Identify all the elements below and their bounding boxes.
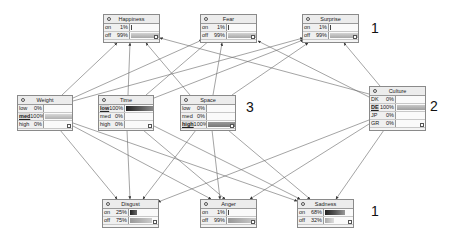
state-row-jp[interactable]: JP0% bbox=[370, 112, 425, 120]
state-row-dk[interactable]: DK0% bbox=[370, 96, 425, 104]
node-title-bar[interactable]: Fear bbox=[201, 15, 256, 24]
node-anger[interactable]: Anger on1% off99% bbox=[200, 199, 257, 228]
node-happiness[interactable]: Happiness on1% off99% bbox=[103, 14, 160, 43]
node-toggle-icon[interactable] bbox=[106, 202, 110, 206]
node-toggle-icon[interactable] bbox=[306, 17, 310, 21]
probability-bar bbox=[397, 105, 425, 110]
state-row-on[interactable]: on1% bbox=[104, 24, 159, 32]
state-row-de[interactable]: DE100% bbox=[370, 104, 425, 112]
resize-handle-icon[interactable] bbox=[154, 35, 158, 39]
node-title-bar[interactable]: Sadness bbox=[298, 200, 353, 209]
node-title-bar[interactable]: Time bbox=[99, 96, 153, 105]
state-row-low[interactable]: low0% bbox=[18, 105, 72, 113]
group-label-middle: 3 bbox=[246, 99, 254, 115]
node-toggle-icon[interactable] bbox=[301, 202, 305, 206]
edge-time-happiness bbox=[128, 43, 130, 95]
resize-handle-icon[interactable] bbox=[148, 124, 152, 128]
edge-culture-surprise bbox=[344, 43, 380, 86]
node-title-bar[interactable]: Disgust bbox=[103, 200, 158, 209]
edge-time-disgust bbox=[127, 130, 130, 199]
resize-handle-icon[interactable] bbox=[153, 220, 157, 224]
node-disgust[interactable]: Disgust on25% off75% bbox=[102, 199, 159, 228]
node-weight[interactable]: Weight low0% med100% high0% bbox=[17, 95, 73, 131]
state-row-med[interactable]: med0% bbox=[181, 113, 235, 121]
edge-space-sadness bbox=[228, 130, 310, 199]
resize-handle-icon[interactable] bbox=[230, 124, 234, 128]
resize-handle-icon[interactable] bbox=[251, 35, 255, 39]
edge-time-angry bbox=[143, 130, 225, 199]
node-title-bar[interactable]: Surprise bbox=[303, 15, 358, 24]
state-row-on[interactable]: on1% bbox=[201, 24, 256, 32]
node-title-bar[interactable]: Culture bbox=[370, 87, 425, 96]
probability-bar bbox=[45, 114, 72, 119]
group-label-culture: 2 bbox=[430, 98, 438, 114]
node-toggle-icon[interactable] bbox=[204, 202, 208, 206]
edge-culture-happiness bbox=[160, 38, 369, 94]
edge-space-surprise bbox=[232, 43, 308, 95]
state-row-on[interactable]: on25% bbox=[103, 209, 158, 217]
node-sadness[interactable]: Sadness on68% off32% bbox=[297, 199, 354, 228]
state-row-on[interactable]: on1% bbox=[201, 209, 256, 217]
node-toggle-icon[interactable] bbox=[204, 17, 208, 21]
state-row-on[interactable]: on68% bbox=[298, 209, 353, 217]
edge-culture-disgust bbox=[158, 120, 369, 202]
state-row-off[interactable]: off99% bbox=[303, 32, 358, 40]
resize-handle-icon[interactable] bbox=[353, 35, 357, 39]
state-row-high[interactable]: high100% bbox=[181, 121, 235, 129]
group-label-bottom: 1 bbox=[371, 203, 379, 219]
edge-weight-happiness bbox=[62, 43, 117, 95]
state-row-off[interactable]: off99% bbox=[201, 217, 256, 225]
node-time[interactable]: Time low100% med0% high0% bbox=[98, 95, 154, 131]
state-row-med[interactable]: med100% bbox=[18, 113, 72, 121]
edge-space-happiness bbox=[146, 43, 190, 95]
state-row-on[interactable]: on1% bbox=[303, 24, 358, 32]
probability-bar bbox=[126, 106, 153, 111]
state-row-high[interactable]: high0% bbox=[99, 121, 153, 129]
node-toggle-icon[interactable] bbox=[102, 98, 106, 102]
resize-handle-icon[interactable] bbox=[251, 220, 255, 224]
node-culture[interactable]: Culture DK0% DE100% JP0% GR0% bbox=[369, 86, 426, 131]
node-title-bar[interactable]: Space bbox=[181, 96, 235, 105]
node-title-bar[interactable]: Weight bbox=[18, 96, 72, 105]
resize-handle-icon[interactable] bbox=[348, 220, 352, 224]
node-title-bar[interactable]: Anger bbox=[201, 200, 256, 209]
node-fear[interactable]: Fear on1% off99% bbox=[200, 14, 257, 43]
node-surprise[interactable]: Surprise on1% off99% bbox=[302, 14, 359, 43]
edge-time-sadness bbox=[154, 126, 300, 199]
node-title-bar[interactable]: Happiness bbox=[104, 15, 159, 24]
resize-handle-icon[interactable] bbox=[420, 123, 424, 127]
state-row-off[interactable]: off99% bbox=[104, 32, 159, 40]
probability-bar bbox=[130, 218, 152, 223]
node-toggle-icon[interactable] bbox=[184, 98, 188, 102]
state-row-low[interactable]: low0% bbox=[181, 105, 235, 113]
state-row-low[interactable]: low100% bbox=[99, 105, 153, 113]
edge-weight-fear bbox=[73, 40, 202, 98]
resize-handle-icon[interactable] bbox=[67, 124, 71, 128]
state-row-off[interactable]: off75% bbox=[103, 217, 158, 225]
node-space[interactable]: Space low0% med0% high100% bbox=[180, 95, 236, 131]
edge-space-disgust bbox=[143, 130, 196, 199]
node-toggle-icon[interactable] bbox=[373, 89, 377, 93]
probability-bar bbox=[130, 210, 137, 215]
state-row-gr[interactable]: GR0% bbox=[370, 120, 425, 128]
edge-space-fear bbox=[213, 43, 222, 95]
state-row-high[interactable]: high0% bbox=[18, 121, 72, 129]
edge-weight-surprise bbox=[73, 38, 303, 101]
group-label-top: 1 bbox=[371, 20, 379, 36]
edge-culture-angry bbox=[250, 124, 369, 199]
state-row-off[interactable]: off32% bbox=[298, 217, 353, 225]
state-row-med[interactable]: med0% bbox=[99, 113, 153, 121]
edge-time-fear bbox=[146, 40, 210, 95]
edge-weight-sadness bbox=[73, 123, 297, 201]
probability-bar bbox=[325, 210, 345, 215]
edge-space-angry bbox=[212, 130, 220, 199]
state-row-off[interactable]: off99% bbox=[201, 32, 256, 40]
edge-weight-disgust bbox=[60, 130, 117, 199]
node-toggle-icon[interactable] bbox=[21, 98, 25, 102]
node-toggle-icon[interactable] bbox=[107, 17, 111, 21]
probability-bar bbox=[325, 218, 334, 223]
